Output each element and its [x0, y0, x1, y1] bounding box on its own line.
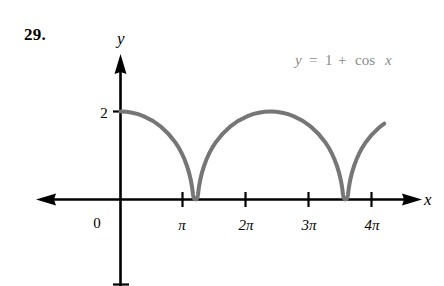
equation-one: 1 — [325, 52, 333, 68]
y-tick-label-2: 2 — [100, 105, 108, 121]
equation-annotation: y = 1 + cos x — [293, 52, 392, 68]
x-axis-left-arrowhead — [36, 194, 56, 206]
y-axis-top-arrowhead — [115, 54, 127, 74]
x-tick-label-pi: π — [178, 217, 186, 233]
equation-plus: + — [338, 52, 346, 68]
figure-page: 29. y x 0 π 2π 3π 4π 2 y = — [0, 0, 444, 286]
y-axis-label: y — [115, 29, 125, 48]
x-axis-label: x — [423, 190, 432, 209]
cosine-curve — [121, 112, 385, 200]
x-axis-right-arrowhead — [402, 194, 422, 206]
graph-canvas: y x 0 π 2π 3π 4π 2 y = 1 + cos x — [0, 0, 444, 286]
equation-cos: cos — [355, 52, 375, 68]
x-tick-label-4pi: 4π — [364, 217, 380, 233]
x-tick-label-2pi: 2π — [238, 217, 254, 233]
equation-y: y — [293, 52, 302, 68]
equation-equals: = — [309, 52, 317, 68]
equation-x: x — [384, 52, 392, 68]
x-tick-label-3pi: 3π — [300, 217, 317, 233]
x-tick-label-0: 0 — [93, 215, 101, 231]
